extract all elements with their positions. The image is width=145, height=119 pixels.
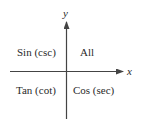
quadrant-diagram: y x Sin (csc) All Tan (cot) Cos (sec) (0, 0, 145, 119)
x-axis-label: x (126, 65, 132, 77)
quadrant-2-label: Sin (csc) (17, 46, 56, 59)
y-axis-label: y (62, 7, 68, 19)
quadrant-1-label: All (80, 46, 94, 58)
quadrant-3-label: Tan (cot) (16, 84, 56, 97)
quadrant-4-label: Cos (sec) (73, 84, 115, 97)
